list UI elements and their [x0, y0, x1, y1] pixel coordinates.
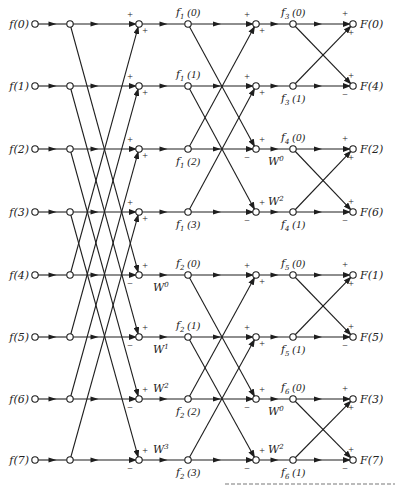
- arrow-icon: [160, 83, 168, 88]
- plus-sign: +: [142, 322, 148, 333]
- flow-edge: [188, 89, 254, 212]
- node-label: f1 (2): [175, 155, 200, 170]
- node-circle: [290, 146, 296, 152]
- arrow-icon: [314, 457, 322, 462]
- twiddle-label: W1: [153, 343, 169, 356]
- plus-sign: +: [259, 384, 265, 395]
- minus-sign: −: [127, 278, 133, 289]
- node-circle: [185, 21, 191, 27]
- arrow-icon: [91, 457, 99, 462]
- arrow-icon: [49, 146, 57, 151]
- output-label: F(4): [359, 80, 383, 93]
- flow-edge: [293, 277, 351, 337]
- node-label: f4 (1): [280, 218, 305, 233]
- node-circle: [253, 396, 259, 402]
- minus-sign: −: [127, 340, 133, 351]
- plus-sign: +: [142, 213, 148, 224]
- input-label: f(7): [8, 454, 29, 467]
- node-circle: [67, 396, 73, 402]
- plus-sign: +: [348, 27, 354, 38]
- minus-sign: −: [342, 89, 348, 100]
- node-label: f6 (1): [280, 466, 305, 481]
- arrow-icon: [160, 457, 168, 462]
- plus-sign: +: [348, 321, 354, 332]
- node-circle: [290, 334, 296, 340]
- output-label: F(6): [359, 206, 383, 219]
- flow-edge: [188, 337, 254, 457]
- twiddle-label: W0: [153, 281, 169, 294]
- arrow-icon: [49, 334, 57, 339]
- arrow-icon: [49, 457, 57, 462]
- arrow-icon: [49, 83, 57, 88]
- arrow-icon: [314, 146, 322, 151]
- input-label: f(0): [8, 18, 29, 31]
- arrow-icon: [314, 21, 322, 26]
- output-label: F(1): [359, 269, 383, 282]
- arrow-icon: [271, 272, 279, 277]
- node-label: f5 (0): [280, 257, 305, 272]
- arrow-icon: [213, 457, 221, 462]
- plus-sign: +: [342, 259, 348, 270]
- flow-edge: [70, 89, 138, 337]
- twiddle-label: W2: [268, 443, 284, 456]
- arrow-icon: [91, 209, 99, 214]
- node-label: f2 (2): [175, 405, 200, 420]
- flow-edge: [70, 24, 138, 272]
- plus-sign: +: [259, 445, 265, 456]
- node-circle: [290, 272, 296, 278]
- node-circle: [67, 457, 73, 463]
- plus-sign: +: [259, 134, 265, 145]
- node-circle: [290, 83, 296, 89]
- input-label: f(5): [8, 331, 29, 344]
- twiddle-label: W0: [268, 155, 284, 168]
- input-label: f(3): [8, 206, 29, 219]
- flow-edge: [70, 86, 138, 334]
- flow-edge: [188, 27, 254, 149]
- plus-sign: +: [348, 278, 354, 289]
- plus-sign: +: [142, 87, 148, 98]
- output-label: F(3): [359, 393, 383, 406]
- nodes: [32, 21, 356, 463]
- node-label: f5 (1): [280, 343, 305, 358]
- node-circle: [185, 83, 191, 89]
- node-circle: [290, 21, 296, 27]
- plus-sign: +: [348, 196, 354, 207]
- node-circle: [136, 272, 142, 278]
- node-circle: [185, 396, 191, 402]
- node-circle: [136, 334, 142, 340]
- node-circle: [185, 334, 191, 340]
- node-circle: [253, 146, 259, 152]
- node-circle: [290, 209, 296, 215]
- node-label: f6 (0): [280, 381, 305, 396]
- arrow-icon: [271, 21, 279, 26]
- node-circle: [185, 457, 191, 463]
- node-label: f3 (0): [280, 6, 305, 21]
- flow-edge: [188, 24, 254, 146]
- arrow-icon: [314, 209, 322, 214]
- arrow-icon: [160, 146, 168, 151]
- output-label: F(0): [359, 18, 383, 31]
- node-circle: [136, 457, 142, 463]
- node-circle: [32, 209, 38, 215]
- node-circle: [136, 396, 142, 402]
- plus-sign: +: [142, 445, 148, 456]
- node-label: f1 (0): [175, 6, 200, 21]
- arrow-icon: [314, 334, 322, 339]
- node-circle: [67, 21, 73, 27]
- minus-sign: −: [244, 215, 250, 226]
- plus-sign: +: [127, 197, 133, 208]
- minus-sign: −: [127, 402, 133, 413]
- labels: f(0)F(0)f(1)F(4)f(2)F(2)f(3)F(6)f(4)F(1)…: [8, 6, 383, 481]
- plus-sign: +: [142, 150, 148, 161]
- twiddle-label: W2: [153, 382, 169, 395]
- node-circle: [185, 146, 191, 152]
- flow-edge: [70, 149, 138, 396]
- node-circle: [32, 146, 38, 152]
- arrow-icon: [271, 334, 279, 339]
- minus-sign: −: [342, 463, 348, 474]
- node-circle: [350, 334, 356, 340]
- arrow-icon: [314, 272, 322, 277]
- input-label: f(6): [8, 393, 29, 406]
- twiddle-label: W3: [153, 443, 169, 456]
- flow-edge: [293, 275, 351, 335]
